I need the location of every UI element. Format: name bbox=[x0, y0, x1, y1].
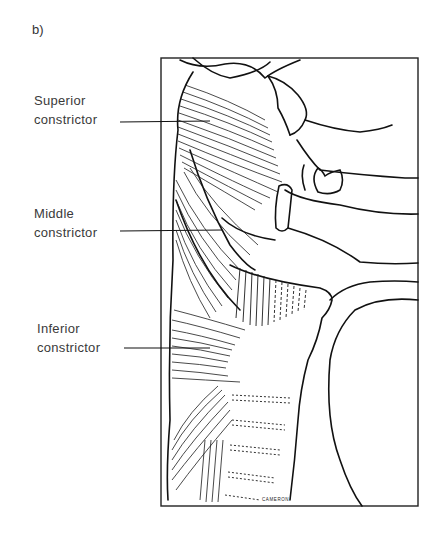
middle-constrictor-hatching bbox=[176, 168, 258, 318]
trachea-rings bbox=[225, 395, 290, 500]
inferior-constrictor-hatching bbox=[172, 310, 245, 382]
cricopharyngeus-hatching bbox=[172, 386, 232, 502]
superior-constrictor-hatching bbox=[178, 85, 282, 210]
artist-signature: CAMERON bbox=[262, 497, 289, 502]
pharyngeal-constrictors-illustration bbox=[0, 0, 446, 537]
thyrohyoid-hatching bbox=[236, 268, 306, 326]
